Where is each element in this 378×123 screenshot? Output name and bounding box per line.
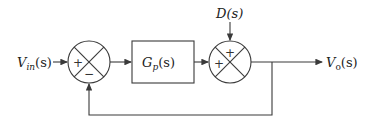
block-diagram: Vin(s) + − Gp(s) D(s) + + Vo(s) xyxy=(0,0,378,123)
summing-junction-2: + + xyxy=(209,41,251,83)
plant-block: Gp(s) xyxy=(132,41,194,83)
summing-junction-1: + − xyxy=(68,41,110,83)
summer1-plus-sign: + xyxy=(73,56,83,70)
disturbance-label: D(s) xyxy=(215,6,243,21)
summer2-top-plus-sign: + xyxy=(225,46,235,60)
summer1-minus-sign: − xyxy=(84,67,94,81)
output-label: Vo(s) xyxy=(326,55,358,72)
summer2-left-plus-sign: + xyxy=(214,57,224,71)
plant-label: Gp(s) xyxy=(142,55,175,72)
input-label: Vin(s) xyxy=(17,55,52,72)
feedback-path xyxy=(89,62,272,115)
